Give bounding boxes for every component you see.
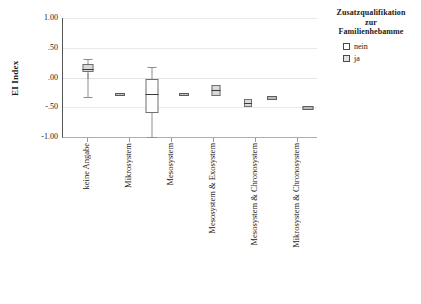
y-tick-1: 1.00: [24, 14, 58, 22]
boxplot-mesosystem-exosystem-nein: [203, 18, 229, 137]
legend-item-nein[interactable]: nein: [343, 42, 417, 51]
plot-area: [62, 18, 317, 138]
legend-swatch-icon-ja: [343, 55, 350, 62]
x-tickmark-2: [129, 138, 130, 142]
y-tick-4: -.50: [24, 103, 58, 111]
single-value-marker: [115, 93, 125, 97]
boxplot-keine-angabe-nein: [75, 18, 101, 137]
x-label-mikrosystem: Mikrosystem: [124, 143, 133, 188]
median-line: [244, 103, 252, 104]
whisker-cap-lower: [148, 137, 157, 138]
legend-item-ja[interactable]: ja: [343, 54, 417, 63]
x-tickmark-3: [171, 138, 172, 142]
legend-title: Zusatzqualifikation zur Familienhebamme: [325, 8, 417, 37]
single-value-marker: [179, 93, 189, 97]
x-label-mesosystem-exosystem: Mesosystem & Exosystem: [208, 143, 217, 234]
y-tick-3: .00: [24, 74, 58, 82]
whisker-lower: [152, 113, 153, 137]
x-label-mesosystem-chronosystem: Mesosystem & Chronosystem: [250, 143, 259, 245]
legend-items: nein ja: [325, 42, 417, 63]
legend-title-line-2: zur: [325, 18, 417, 28]
boxplot-mesosystem-nein: [139, 18, 165, 137]
single-value-marker: [267, 96, 277, 100]
x-tickmark-6: [297, 138, 298, 142]
y-tick-2: .50: [24, 44, 58, 52]
whisker-cap-lower: [84, 97, 93, 98]
legend: Zusatzqualifikation zur Familienhebamme …: [325, 8, 417, 63]
y-axis-ticks: 1.00 .50 .00 -.50 -1.00: [24, 0, 58, 304]
x-axis-labels: keine Angabe Mikrosystem Mesosystem Meso…: [62, 139, 316, 299]
whisker-cap-upper: [148, 67, 157, 68]
legend-title-line-3: Familienhebamme: [325, 27, 417, 37]
boxplot-figure: EI Index 1.00 .50 .00 -.50 -1.00: [0, 0, 421, 304]
whisker-upper: [152, 67, 153, 78]
boxplot-mesosystem-ja: [171, 18, 197, 137]
median-line: [212, 90, 221, 91]
x-tickmark-4: [213, 138, 214, 142]
median-line: [146, 94, 159, 95]
x-label-mikrosystem-chronosystem: Mikrosystem & Chronosystem: [292, 143, 301, 248]
boxplot-mesosystem-chronosystem-ja: [259, 18, 285, 137]
whisker-cap-upper: [84, 59, 93, 60]
y-tick-5: -1.00: [24, 133, 58, 141]
y-axis-label: EI Index: [8, 28, 22, 128]
single-value-marker: [303, 106, 314, 110]
boxplot-mesosystem-chronosystem-nein: [235, 18, 261, 137]
x-tickmark-5: [255, 138, 256, 142]
legend-swatch-icon-nein: [343, 43, 350, 50]
boxplot-mikrosystem-chronosystem-ja: [295, 18, 321, 137]
whisker-lower: [88, 73, 89, 98]
box: [146, 79, 159, 113]
legend-title-line-1: Zusatzqualifikation: [325, 8, 417, 18]
legend-label-ja: ja: [354, 54, 360, 63]
legend-label-nein: nein: [354, 42, 368, 51]
x-tickmark-1: [87, 138, 88, 142]
median-line: [83, 69, 94, 70]
x-label-mesosystem: Mesosystem: [166, 143, 175, 186]
x-label-keine-angabe: keine Angabe: [82, 143, 91, 190]
boxplot-mikrosystem-ja: [107, 18, 133, 137]
